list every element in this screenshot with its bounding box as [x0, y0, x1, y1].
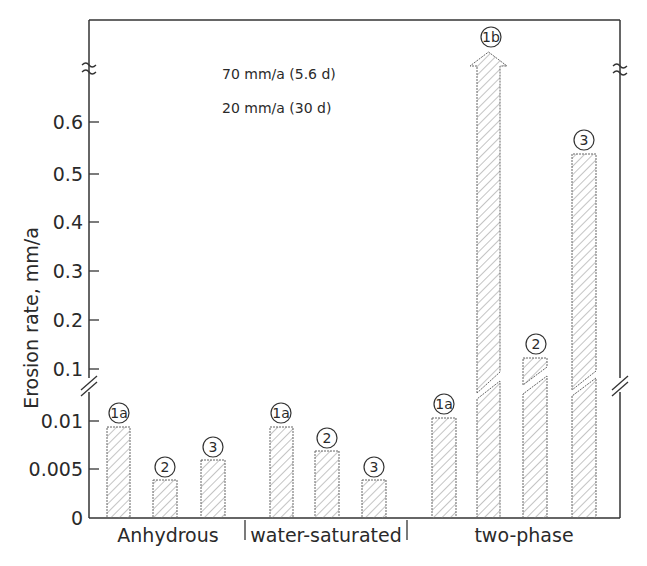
tick-0.01: 0.01: [41, 410, 83, 432]
tick-0.5: 0.5: [53, 163, 83, 185]
bar-anhydrous-3: [201, 460, 225, 518]
annotation-70mm: 70 mm/a (5.6 d): [222, 66, 336, 82]
tick-0.6: 0.6: [53, 111, 83, 133]
y-ticks: [89, 122, 99, 469]
bar-two-phase-1b-lower: [477, 381, 500, 518]
group-label-two-phase: two-phase: [474, 524, 573, 546]
bar-label-water-saturated-3: 3: [370, 459, 379, 475]
bar-two-phase-2-lower: [523, 376, 547, 518]
bar-label-anhydrous-2: 2: [161, 459, 170, 475]
bar-anhydrous-2: [153, 480, 177, 518]
bar-two-phase-3-upper: [572, 154, 596, 390]
tick-0.1: 0.1: [53, 358, 83, 380]
group-label-water-saturated: water-saturated: [250, 524, 401, 546]
bar-labels: [109, 27, 594, 477]
annotation-20mm: 20 mm/a (30 d): [222, 100, 331, 116]
bar-label-water-saturated-1a: 1a: [272, 405, 290, 421]
tick-0.3: 0.3: [53, 260, 83, 282]
tick-0.2: 0.2: [53, 309, 83, 331]
bar-anhydrous-1a: [107, 427, 130, 518]
bar-two-phase-1a: [432, 418, 456, 518]
bar-label-two-phase-1a: 1a: [435, 396, 453, 412]
bar-water-saturated-2: [315, 451, 339, 518]
bar-water-saturated-1a: [270, 427, 293, 518]
bar-label-two-phase-3: 3: [580, 132, 589, 148]
tick-0: 0: [71, 507, 83, 529]
y-axis-title: Erosion rate, mm/a: [20, 227, 42, 409]
tick-0.005: 0.005: [29, 458, 83, 480]
bar-two-phase-1b-upper-arrow: [470, 52, 507, 393]
bar-label-anhydrous-1a: 1a: [110, 405, 128, 421]
group-label-anhydrous: Anhydrous: [117, 524, 218, 546]
bar-label-anhydrous-3: 3: [209, 439, 218, 455]
tick-0.4: 0.4: [53, 211, 83, 233]
bar-label-water-saturated-2: 2: [323, 430, 332, 446]
bar-label-two-phase-1b: 1b: [482, 29, 500, 45]
erosion-rate-chart: 0.6 0.5 0.4 0.3 0.2 0.1 0.01 0.005 0 Ero…: [0, 0, 647, 566]
bar-label-two-phase-2: 2: [532, 336, 541, 352]
bars: [107, 52, 596, 518]
bar-water-saturated-3: [362, 480, 386, 518]
bar-two-phase-3-lower: [572, 378, 596, 518]
